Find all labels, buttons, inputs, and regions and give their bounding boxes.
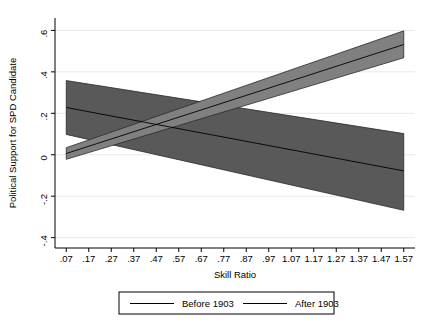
y-tick-label: -.2 <box>38 194 49 205</box>
x-tick-label: 1.07 <box>282 253 301 264</box>
x-tick-label: .37 <box>127 253 140 264</box>
x-tick-label: 1.37 <box>350 253 369 264</box>
y-axis-ticks: -.4-.20.2.4.6 <box>38 30 55 247</box>
y-tick-label: .4 <box>38 71 49 79</box>
chart-figure: -.4-.20.2.4.6 .07.17.27.37.47.57.67.77.8… <box>0 0 439 322</box>
x-tick-label: .47 <box>150 253 163 264</box>
x-tick-label: .67 <box>195 253 208 264</box>
y-tick-label: .6 <box>38 30 49 38</box>
x-axis-title: Skill Ratio <box>214 269 256 280</box>
legend-label-before-1903: Before 1903 <box>182 298 234 309</box>
x-tick-label: .07 <box>60 253 73 264</box>
x-tick-label: .97 <box>262 253 275 264</box>
y-axis-title: Political Support for SPD Candidate <box>7 58 18 209</box>
x-tick-label: 1.27 <box>327 253 346 264</box>
y-tick-label: -.4 <box>38 235 49 246</box>
legend-label-after-1903: After 1903 <box>295 298 339 309</box>
x-tick-label: .87 <box>240 253 253 264</box>
y-tick-label: .2 <box>38 113 49 121</box>
x-tick-label: 1.17 <box>305 253 324 264</box>
x-tick-label: 1.47 <box>372 253 391 264</box>
x-tick-label: .77 <box>217 253 230 264</box>
x-tick-label: .17 <box>82 253 95 264</box>
x-tick-label: 1.57 <box>395 253 414 264</box>
x-tick-label: .27 <box>105 253 118 264</box>
chart-canvas: -.4-.20.2.4.6 .07.17.27.37.47.57.67.77.8… <box>0 0 439 322</box>
legend: Before 1903 After 1903 <box>119 292 339 314</box>
x-tick-label: .57 <box>172 253 185 264</box>
x-axis-ticks: .07.17.27.37.47.57.67.77.87.971.071.171.… <box>60 248 413 264</box>
y-tick-label: 0 <box>38 155 49 160</box>
